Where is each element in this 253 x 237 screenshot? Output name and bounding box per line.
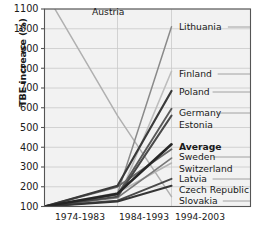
x-tick-label: 1984-1993 <box>119 211 169 222</box>
y-tick-label: 1000 <box>14 23 39 34</box>
tbe-increase-line-chart: TBE increase (%) 10020030040050060070080… <box>0 0 253 237</box>
series-label-sweden: Sweden <box>179 151 215 162</box>
series-label-czech-republic: Czech Republic <box>179 184 249 195</box>
y-axis-ticks: 10020030040050060070080090010001100 <box>14 3 45 212</box>
y-tick-label: 1100 <box>14 3 39 14</box>
series-label-germany: Germany <box>179 107 222 118</box>
y-tick-label: 700 <box>20 82 39 93</box>
y-tick-label: 200 <box>20 181 39 192</box>
x-axis-ticks: 1974-19831984-19931994-2003 <box>55 211 225 222</box>
x-tick-label: 1974-1983 <box>55 211 105 222</box>
series-label-austria: Austria <box>92 6 124 17</box>
y-tick-label: 500 <box>20 122 39 133</box>
chart-canvas: 10020030040050060070080090010001100 1974… <box>0 0 253 237</box>
y-tick-label: 600 <box>20 102 39 113</box>
y-tick-label: 400 <box>20 142 39 153</box>
series-label-finland: Finland <box>179 68 212 79</box>
y-tick-label: 800 <box>20 63 39 74</box>
series-label-lithuania: Lithuania <box>179 21 222 32</box>
y-tick-label: 900 <box>20 43 39 54</box>
series-label-poland: Poland <box>179 86 210 97</box>
x-tick-label: 1994-2003 <box>175 211 225 222</box>
series-label-latvia: Latvia <box>179 173 207 184</box>
y-tick-label: 300 <box>20 161 39 172</box>
series-label-slovakia: Slovakia <box>179 195 218 206</box>
series-label-estonia: Estonia <box>179 119 213 130</box>
y-tick-label: 100 <box>20 201 39 212</box>
